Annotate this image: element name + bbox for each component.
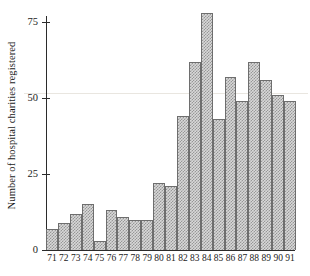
bar-81 bbox=[165, 186, 177, 250]
bar-80 bbox=[153, 183, 165, 250]
bar-74 bbox=[82, 204, 94, 250]
bar-88 bbox=[248, 62, 260, 250]
x-axis-line bbox=[46, 250, 295, 251]
bar-71 bbox=[46, 229, 58, 250]
bar-89 bbox=[260, 80, 272, 250]
plot-area bbox=[46, 14, 296, 250]
y-tick-mark-0 bbox=[42, 250, 50, 251]
bar-73 bbox=[70, 214, 82, 250]
bar-86 bbox=[225, 77, 237, 250]
bar-82 bbox=[177, 116, 189, 250]
y-tick-label-25: 25 bbox=[0, 169, 38, 180]
bar-85 bbox=[213, 119, 225, 250]
y-axis-title: Number of hospital charities registered bbox=[0, 0, 24, 250]
y-axis-title-text: Number of hospital charities registered bbox=[7, 41, 18, 209]
x-tick-label-91: 91 bbox=[282, 253, 298, 264]
bar-75 bbox=[94, 241, 106, 250]
x-axis-tick-labels: 7172737475767778798081828384858687888990… bbox=[46, 253, 296, 269]
bar-78 bbox=[129, 220, 141, 250]
bar-84 bbox=[201, 13, 213, 250]
bar-90 bbox=[272, 95, 284, 250]
bar-series bbox=[46, 14, 296, 250]
y-tick-label-75: 75 bbox=[0, 17, 38, 28]
y-tick-label-50: 50 bbox=[0, 93, 38, 104]
bar-76 bbox=[106, 210, 118, 250]
y-tick-label-0: 0 bbox=[0, 245, 38, 256]
bar-83 bbox=[189, 62, 201, 250]
bar-79 bbox=[141, 220, 153, 250]
bar-77 bbox=[117, 217, 129, 250]
bar-87 bbox=[236, 101, 248, 250]
bar-91 bbox=[284, 101, 296, 250]
bar-72 bbox=[58, 223, 70, 250]
bar-chart-figure: Number of hospital charities registered … bbox=[0, 0, 310, 276]
